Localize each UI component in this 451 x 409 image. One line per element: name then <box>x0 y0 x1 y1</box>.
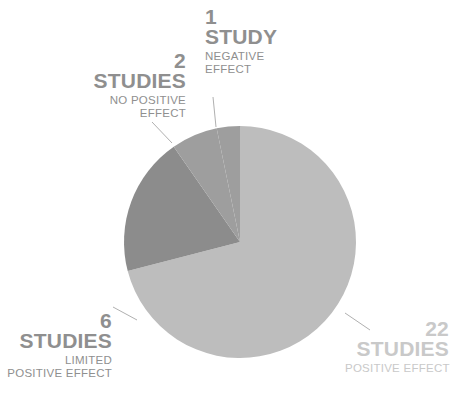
callout-no-positive-description-line2: EFFECT <box>28 107 186 119</box>
pie-slices <box>124 126 356 358</box>
callout-negative-description-line1: NEGATIVE <box>205 50 277 62</box>
leader-line-limited-positive-effect <box>113 307 137 320</box>
callout-limited-unit: STUDIES <box>2 330 112 353</box>
callout-negative-description-line2: EFFECT <box>205 63 277 75</box>
callout-positive-effect: 22 STUDIES POSITIVE EFFECT <box>345 318 449 375</box>
callout-no-positive-unit: STUDIES <box>28 70 186 93</box>
callout-limited-positive-effect: 6 STUDIES LIMITED POSITIVE EFFECT <box>2 310 112 379</box>
callout-no-positive-description-line1: NO POSITIVE <box>28 94 186 106</box>
callout-no-positive-effect: 2 STUDIES NO POSITIVE EFFECT <box>28 50 186 119</box>
callout-no-positive-description: NO POSITIVE EFFECT <box>28 94 186 119</box>
callout-negative-description: NEGATIVE EFFECT <box>205 50 277 75</box>
leader-line-negative-effect <box>213 97 216 127</box>
pie-chart: 1 STUDY NEGATIVE EFFECT 2 STUDIES NO POS… <box>0 0 451 409</box>
callout-positive-description: POSITIVE EFFECT <box>345 362 449 374</box>
callout-positive-description-line1: POSITIVE EFFECT <box>345 362 449 374</box>
callout-positive-unit: STUDIES <box>345 338 449 361</box>
callout-limited-description-line2: POSITIVE EFFECT <box>2 367 112 379</box>
leader-line-no-positive-effect <box>152 122 172 143</box>
callout-negative-effect: 1 STUDY NEGATIVE EFFECT <box>205 6 277 75</box>
callout-negative-unit: STUDY <box>205 26 277 49</box>
callout-limited-description: LIMITED POSITIVE EFFECT <box>2 354 112 379</box>
callout-limited-description-line1: LIMITED <box>2 354 112 366</box>
